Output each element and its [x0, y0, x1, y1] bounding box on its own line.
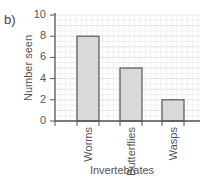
x-tick-label: Worms — [82, 127, 94, 162]
y-tick-label: 0 — [26, 114, 46, 126]
x-axis-label: Invertebrates — [90, 164, 154, 176]
y-tick-label: 10 — [26, 8, 46, 20]
y-tick-label: 2 — [26, 93, 46, 105]
y-tick-label: 4 — [26, 72, 46, 84]
y-tick-label: 8 — [26, 29, 46, 41]
x-tick-label: Butterflies — [125, 127, 137, 176]
x-tick-label: Wasps — [167, 127, 179, 160]
bar-worms — [77, 36, 99, 121]
y-axis-label: Number seen — [22, 35, 34, 101]
bar-wasps — [162, 100, 184, 121]
y-tick-label: 6 — [26, 50, 46, 62]
bar-butterflies — [120, 68, 142, 121]
